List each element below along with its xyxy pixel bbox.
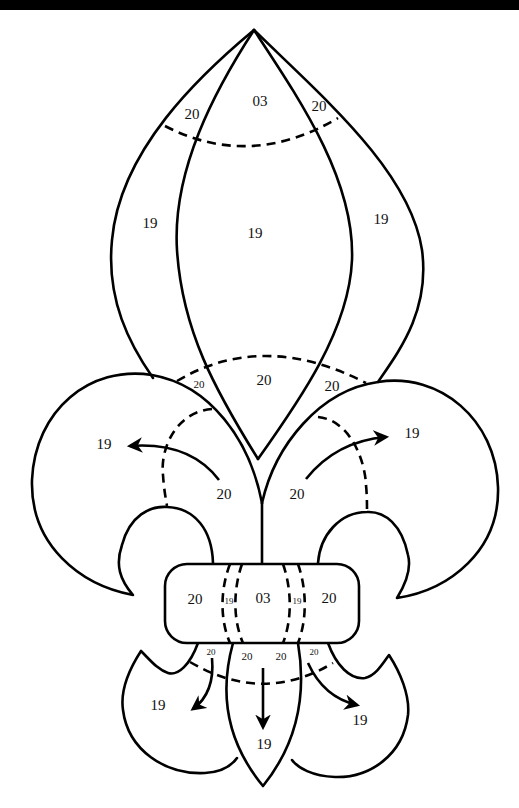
label-band-right: 20: [322, 590, 337, 606]
label-under-band-far-right: 20: [310, 647, 320, 657]
label-top-tip-right: 20: [312, 98, 327, 114]
label-band-left-stripe: 19: [225, 596, 235, 606]
left-petal-dashed-arc: [163, 409, 212, 506]
label-top-outer-right: 19: [374, 211, 389, 227]
left-lobe-outline: [122, 643, 237, 773]
right-petal-arrow: [306, 437, 386, 479]
label-right-petal: 19: [405, 425, 420, 441]
right-petal-dashed-arc: [318, 417, 367, 512]
label-left-lobe: 19: [151, 697, 166, 713]
label-under-band-left: 20: [242, 650, 254, 662]
label-band-left: 20: [188, 591, 203, 607]
label-band-center: 03: [256, 590, 271, 606]
label-under-band-far-left: 20: [207, 647, 217, 657]
right-lobe-arrow: [308, 663, 357, 705]
label-arc-right: 20: [325, 378, 340, 394]
label-left-petal-inner: 20: [217, 486, 232, 502]
label-center-lobe: 19: [257, 736, 272, 752]
label-under-band-right: 20: [276, 650, 288, 662]
label-arc-center: 20: [257, 372, 272, 388]
top-inner-left-line: [177, 30, 258, 459]
label-top-tip-center: 03: [253, 93, 268, 109]
top-outer-left-line: [111, 30, 254, 378]
label-right-lobe: 19: [353, 712, 368, 728]
label-right-petal-inner: 20: [290, 486, 305, 502]
label-arc-left: 20: [194, 378, 206, 390]
top-outer-right-line: [254, 30, 423, 382]
label-top-center: 19: [248, 225, 263, 241]
label-top-outer-left: 19: [143, 215, 158, 231]
label-band-right-stripe: 19: [293, 596, 303, 606]
label-left-petal: 19: [97, 436, 112, 452]
left-petal-arrow: [130, 446, 219, 480]
label-top-tip-left: 20: [185, 106, 200, 122]
fleur-de-lis-diagram: 20 03 20 19 19 19 20 20 20 19 20 19 20 2…: [0, 0, 519, 808]
